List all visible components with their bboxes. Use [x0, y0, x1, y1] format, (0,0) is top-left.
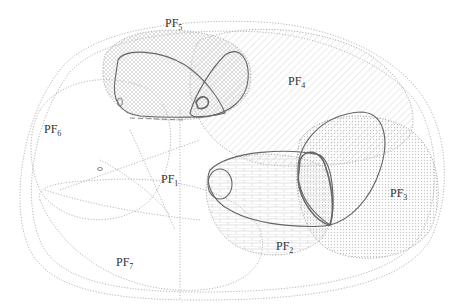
label-pf3: PF3	[390, 186, 407, 202]
region-pf5	[103, 30, 251, 120]
label-pf1: PF1	[161, 172, 178, 188]
label-pf2: PF2	[276, 239, 293, 255]
interior-partitions	[45, 110, 200, 300]
label-pf4: PF4	[288, 74, 305, 90]
label-pf5: PF5	[165, 16, 182, 32]
label-pf7: PF7	[116, 255, 133, 271]
region-pf2	[206, 154, 333, 255]
label-pf6: PF6	[44, 122, 61, 138]
pareto-front-diagram: PF1 PF2 PF3 PF4 PF5 PF6 PF7	[0, 0, 455, 306]
diagram-canvas	[0, 0, 455, 306]
